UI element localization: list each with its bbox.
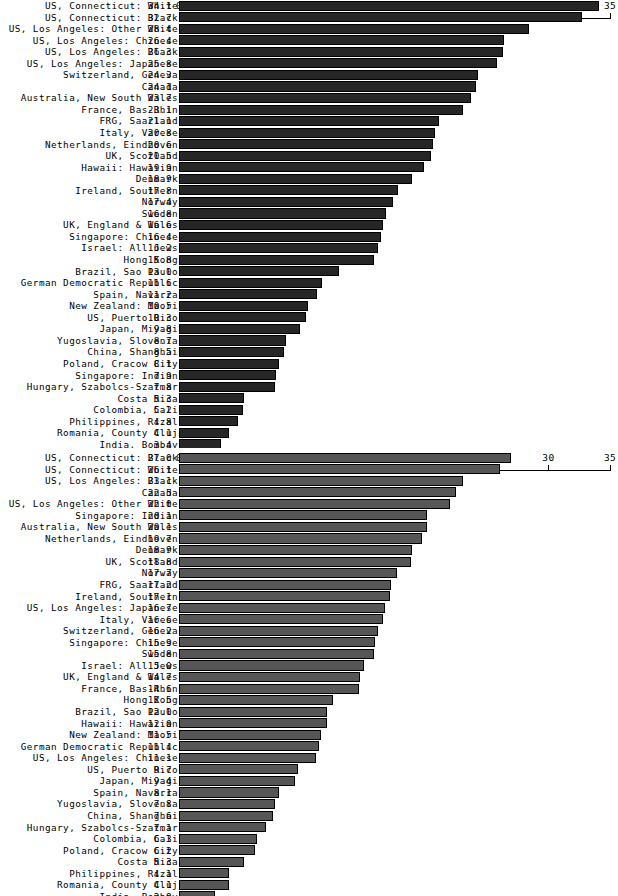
bar	[179, 649, 374, 659]
bar-row: Singapore: Chinese15.9	[0, 637, 618, 649]
bar	[179, 868, 229, 878]
bar	[179, 370, 276, 380]
bar	[179, 591, 390, 601]
bar-row-value: 16.2	[139, 625, 172, 637]
bar-row-value: 2.9	[139, 891, 172, 896]
bar-track	[179, 162, 618, 174]
bar-row: US, Connecticut: White34.1	[0, 0, 618, 12]
bar-row: Hungary, Szabolcs-Szatmar7.8	[0, 381, 618, 393]
bar-row: Colombia, Cali6.3	[0, 833, 618, 845]
bar	[179, 718, 327, 728]
bar	[179, 603, 385, 613]
bar-row-value: 16.4	[139, 231, 172, 243]
bar-track	[179, 23, 618, 35]
bar-row-value: 9.7	[139, 764, 172, 776]
bar	[179, 405, 243, 415]
bar-row: Australia, New South Wales20.1	[0, 521, 618, 533]
bar	[179, 105, 463, 115]
bar-track	[179, 602, 618, 614]
bar-track	[179, 868, 618, 880]
bar	[179, 660, 364, 670]
bar-row: US, Los Angeles: Other White22.0	[0, 498, 618, 510]
bar	[179, 730, 321, 740]
bar-row: Sweden15.8	[0, 648, 618, 660]
bar	[179, 266, 339, 276]
bar-row-value: 5.3	[139, 856, 172, 868]
bar-row-value: 21.1	[139, 115, 172, 127]
bar	[179, 672, 360, 682]
bar-row: Philippines, Rizal4.1	[0, 868, 618, 880]
bar-row-value: 20.8	[139, 127, 172, 139]
bar	[179, 753, 316, 763]
bar	[179, 185, 398, 195]
bar	[179, 139, 433, 149]
bar	[179, 382, 275, 392]
bar-row: Ireland, Southern17.8	[0, 185, 618, 197]
bar-track	[179, 346, 618, 358]
bar-track	[179, 416, 618, 428]
bar-row-value: 10.3	[139, 312, 172, 324]
bar-track	[179, 660, 618, 672]
bar	[179, 232, 381, 242]
bar-track	[179, 231, 618, 243]
bar	[179, 487, 456, 497]
bar-row-value: 7.6	[139, 810, 172, 822]
bar-row-value: 24.1	[139, 81, 172, 93]
bar	[179, 220, 383, 230]
bar-row-value: 32.7	[139, 12, 172, 24]
bar-track	[179, 92, 618, 104]
bar-row: India, Bombay2.9	[0, 891, 618, 896]
bar-track	[179, 591, 618, 603]
bar-row: New Zealand: Maori11.5	[0, 729, 618, 741]
bar	[179, 70, 478, 80]
bar	[179, 695, 333, 705]
bar-row: US, Los Angeles: Other White28.4	[0, 23, 618, 35]
bar-row-value: 19.9	[139, 162, 172, 174]
bar	[179, 81, 476, 91]
bar-row-value: 12.0	[139, 706, 172, 718]
bar-track	[179, 58, 618, 70]
bar-track	[179, 556, 618, 568]
bar-row-value: 25.8	[139, 58, 172, 70]
bar-row-value: 17.7	[139, 567, 172, 579]
bar-row: Switzerland, Geneva24.3	[0, 69, 618, 81]
bar-track	[179, 833, 618, 845]
bar-track	[179, 694, 618, 706]
bar-track	[179, 0, 618, 12]
bar-track	[179, 752, 618, 764]
bar	[179, 47, 503, 57]
bar-row-value: 17.2	[139, 579, 172, 591]
bar-row-value: 16.8	[139, 208, 172, 220]
bar-row: Romania, County Cluj4.1	[0, 427, 618, 439]
bar-row: Switzerland, Geneva16.2	[0, 625, 618, 637]
bar-row: Poland, Cracow City8.1	[0, 358, 618, 370]
bar-track	[179, 741, 618, 753]
bar-track	[179, 487, 618, 499]
bar-row: Japan, Miyagi9.8	[0, 323, 618, 335]
bar-row: Spain, Navarra11.2	[0, 289, 618, 301]
bar-track	[179, 625, 618, 637]
bar-row: Italy, Varese16.6	[0, 614, 618, 626]
bar	[179, 416, 238, 426]
bar	[179, 476, 463, 486]
bar-track	[179, 729, 618, 741]
bar-row: Brazil, Sao Paulo12.0	[0, 706, 618, 718]
bar-track	[179, 452, 618, 464]
bar	[179, 35, 504, 45]
bar-row: FRG, Saarland17.2	[0, 579, 618, 591]
bar-row-value: 34.1	[139, 0, 172, 12]
bar-row-value: 15.8	[139, 648, 172, 660]
bar-track	[179, 439, 618, 448]
bar-track	[179, 127, 618, 139]
bar	[179, 359, 279, 369]
bar-row-value: 9.4	[139, 775, 172, 787]
bar-row-value: 20.1	[139, 510, 172, 522]
bar	[179, 347, 284, 357]
bar-track	[179, 381, 618, 393]
bar	[179, 58, 497, 68]
bar-row-value: 16.6	[139, 219, 172, 231]
bar-row: Australia, New South Wales23.7	[0, 92, 618, 104]
bar-row-value: 18.8	[139, 556, 172, 568]
bar-row: UK, Scotland20.5	[0, 150, 618, 162]
bar-row: Costa Rica5.3	[0, 856, 618, 868]
